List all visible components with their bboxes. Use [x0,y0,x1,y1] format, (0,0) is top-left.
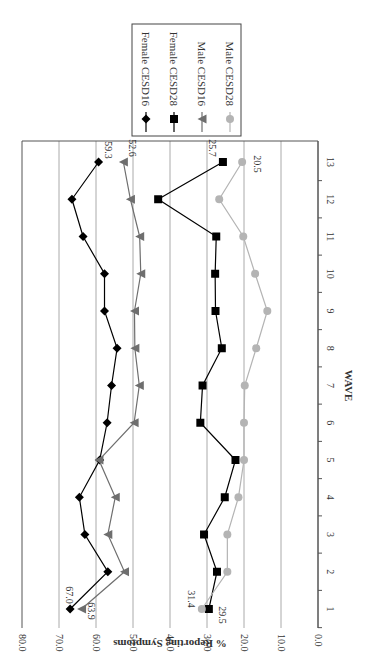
circle-marker [223,531,231,539]
x-tick-label: 2 [325,569,336,574]
square-marker [196,419,204,427]
circle-marker [234,493,242,501]
circle-marker [198,605,206,613]
triangle-marker [103,530,112,539]
data-label: 31.4 [186,590,197,608]
circle-marker [240,419,248,427]
chart-canvas: 0.010.020.030.040.050.060.070.080.012345… [0,0,374,668]
x-tick-label: 11 [325,232,336,242]
x-tick-label: 5 [325,458,336,463]
diamond-marker [67,195,76,204]
x-tick-label: 13 [325,157,336,167]
circle-marker [238,158,246,166]
square-marker [218,344,226,352]
square-marker [213,568,221,576]
data-label: 20.5 [252,155,263,173]
diamond-marker [103,418,112,427]
data-label: 59.3 [103,141,114,159]
y-tick-label: 80.0 [17,634,28,652]
x-tick-label: 6 [325,420,336,425]
data-label: 25.7 [207,139,218,157]
line-chart: 0.010.020.030.040.050.060.070.080.012345… [0,0,374,668]
circle-marker [251,270,259,278]
square-marker [199,382,207,390]
y-tick-label: 10.0 [276,634,287,652]
x-tick-label: 3 [325,532,336,537]
diamond-marker [107,381,116,390]
x-tick-label: 7 [325,383,336,388]
x-tick-label: 10 [325,269,336,279]
circle-marker [223,568,231,576]
square-marker [170,115,178,123]
y-axis-title: % Reporting Symptoms [112,638,226,650]
diamond-marker [80,530,89,539]
triangle-marker [77,605,86,614]
diamond-marker [94,158,103,167]
x-tick-label: 1 [325,607,336,612]
diamond-marker [79,232,88,241]
square-marker [211,270,219,278]
series-line [202,162,267,609]
x-tick-label: 4 [325,495,336,500]
data-label: 52.6 [127,139,138,157]
data-label: 29.5 [217,606,228,624]
legend: Female CESD16Female CESD28Male CESD16Mal… [132,24,241,136]
x-tick-label: 12 [325,194,336,204]
gridlines [22,141,318,628]
series-male-cesd28 [198,158,271,613]
data-label: 63.9 [86,602,97,620]
diamond-marker [113,344,122,353]
circle-marker [239,233,247,241]
square-marker [154,195,162,203]
x-tick-label: 9 [325,309,336,314]
circle-marker [215,195,223,203]
data-label: 67.0 [64,586,75,604]
diamond-marker [100,269,109,278]
circle-marker [263,307,271,315]
square-marker [219,158,227,166]
series-female-cesd28 [154,158,239,613]
square-marker [212,307,220,315]
square-marker [231,456,239,464]
square-marker [212,233,220,241]
legend-label: Male CESD28 [224,42,236,107]
y-tick-label: 70.0 [54,634,65,652]
circle-marker [226,115,234,123]
legend-label: Male CESD16 [196,42,208,107]
circle-marker [252,344,260,352]
x-axis-title: WAVE [343,370,355,402]
legend-label: Female CESD16 [140,32,152,107]
y-tick-label: 20.0 [239,634,250,652]
square-marker [200,531,208,539]
x-tick-label: 8 [325,346,336,351]
square-marker [205,605,213,613]
square-marker [221,493,229,501]
circle-marker [240,456,248,464]
legend-label: Female CESD28 [168,32,180,107]
triangle-marker [111,493,120,502]
diamond-marker [75,493,84,502]
diamond-marker [100,307,109,316]
y-tick-label: 60.0 [91,634,102,652]
circle-marker [241,382,249,390]
data-labels: 67.063.931.429.559.352.625.720.5 [64,139,263,624]
y-tick-label: 0.0 [313,634,324,647]
